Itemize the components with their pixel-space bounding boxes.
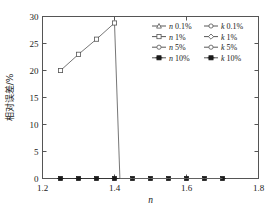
y-tick-label-3: 15 <box>30 93 40 103</box>
legend-marker-k-0-1- <box>209 24 213 28</box>
x-tick-label-3: 1.8 <box>253 183 265 193</box>
legend-label-n-0-1-: n 0.1% <box>169 22 192 31</box>
legend-label-k-1-: k 1% <box>221 33 238 42</box>
legend-label-n-1-: n 1% <box>169 33 186 42</box>
y-tick-label-6: 30 <box>30 12 40 22</box>
legend-marker-n-5- <box>157 45 161 49</box>
legend-label-k-5-: k 5% <box>221 43 238 52</box>
y-tick-label-2: 10 <box>30 120 40 130</box>
rising-series-marker <box>112 21 116 25</box>
legend-label-n-5-: n 5% <box>169 43 186 52</box>
x-tick-label-1: 1.4 <box>109 183 121 193</box>
x-axis-title: n <box>148 195 153 205</box>
legend-label-k-10-: k 10% <box>221 54 242 63</box>
y-tick-label-0: 0 <box>34 174 39 184</box>
legend-marker-k-1- <box>208 34 213 39</box>
y-axis-title: 相对误差/% <box>4 73 15 121</box>
y-tick-label-4: 20 <box>30 66 40 76</box>
rising-series-marker <box>58 68 62 72</box>
chart-figure: 1.21.41.61.8n051015202530相对误差/%n 0.1%k 0… <box>0 0 278 212</box>
y-tick-label-1: 5 <box>34 147 39 157</box>
relative-error-line-chart: 1.21.41.61.8n051015202530相对误差/%n 0.1%k 0… <box>0 0 278 212</box>
legend-marker-n-1- <box>157 35 161 39</box>
rising-series-line <box>61 23 223 179</box>
x-tick-label-0: 1.2 <box>37 183 48 193</box>
rising-series-marker <box>94 37 98 41</box>
legend-label-n-10-: n 10% <box>169 54 190 63</box>
y-tick-label-5: 25 <box>30 39 40 49</box>
x-tick-label-2: 1.6 <box>181 183 193 193</box>
rising-series-marker <box>76 52 80 56</box>
legend-marker-k-5- <box>209 45 213 49</box>
legend-label-k-0-1-: k 0.1% <box>221 22 244 31</box>
